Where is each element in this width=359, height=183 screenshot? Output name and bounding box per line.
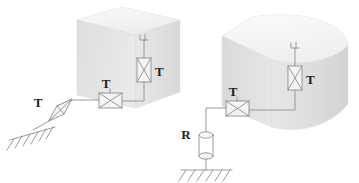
- label-right-resistor: R: [181, 127, 191, 142]
- left-diagonal-valve[interactable]: [49, 99, 72, 121]
- left-vertical-valve[interactable]: [137, 58, 151, 82]
- label-right-vertical-valve: T: [306, 72, 315, 87]
- right-ground-symbol: [179, 170, 232, 181]
- right-vertical-valve[interactable]: [288, 66, 302, 90]
- right-pipe-run: [206, 108, 226, 132]
- schematic-diagram: T T T T T R: [0, 0, 359, 183]
- right-resistor-cylinder[interactable]: [199, 132, 213, 159]
- left-block: [77, 7, 180, 108]
- label-left-vertical-valve: T: [155, 64, 164, 79]
- left-ground-lead: [33, 121, 49, 130]
- label-right-horizontal-valve: T: [229, 84, 238, 99]
- label-left-diagonal-valve: T: [34, 95, 43, 110]
- left-ground-symbol: [7, 127, 55, 150]
- diagram-canvas: T T T T T R: [0, 0, 359, 183]
- label-left-horizontal-valve: T: [102, 76, 111, 91]
